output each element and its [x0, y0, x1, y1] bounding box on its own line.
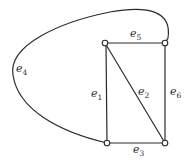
edge-e4 — [13, 9, 169, 143]
vertex-v3 — [104, 140, 110, 146]
edge-e1 — [106, 43, 107, 143]
label-e3: e3 — [133, 143, 145, 158]
vertex-v1 — [102, 40, 108, 46]
label-e2: e2 — [138, 85, 150, 100]
vertex-v2 — [162, 40, 168, 46]
edge-e2 — [105, 43, 165, 143]
label-e1: e1 — [91, 87, 102, 102]
label-e5: e5 — [130, 27, 142, 42]
label-e6: e6 — [170, 85, 182, 100]
vertex-v4 — [162, 140, 168, 146]
graph-diagram: e1 e2 e3 e4 e5 e6 — [0, 0, 186, 163]
label-e4: e4 — [16, 62, 28, 77]
